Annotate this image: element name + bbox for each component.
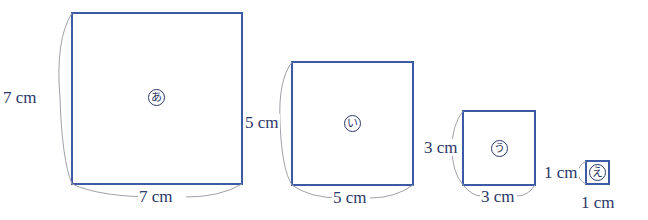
side-label-bottom-a: 7 cm xyxy=(138,188,174,205)
brace-left-i xyxy=(280,62,292,185)
side-label-left-i: 5 cm xyxy=(244,114,280,131)
side-label-left-a: 7 cm xyxy=(2,89,38,106)
side-label-bottom-u: 3 cm xyxy=(480,188,516,205)
side-label-bottom-i: 5 cm xyxy=(332,189,368,206)
side-label-bottom-e: 1 cm xyxy=(580,194,616,211)
brace-left-a xyxy=(59,13,72,184)
diagram-canvas xyxy=(0,0,648,220)
side-label-left-e: 1 cm xyxy=(543,164,579,181)
mark-i: い xyxy=(344,115,361,132)
mark-e: え xyxy=(589,164,606,181)
side-label-left-u: 3 cm xyxy=(423,139,459,156)
brace-left-e xyxy=(578,161,586,184)
mark-a: あ xyxy=(148,89,165,106)
mark-u: う xyxy=(491,140,508,157)
